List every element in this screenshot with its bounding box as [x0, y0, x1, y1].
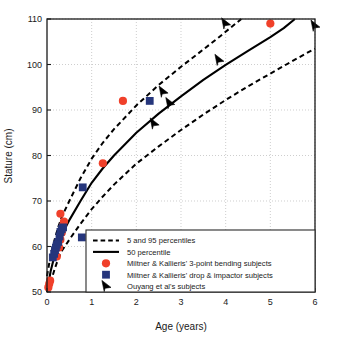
y-tick-label: 50: [32, 287, 42, 297]
y-tick-label: 100: [27, 60, 42, 70]
x-tick-label: 3: [178, 297, 183, 307]
chart-legend: 5 and 95 percentiles50 percentileMiltner…: [86, 230, 315, 292]
x-tick-label: 6: [312, 297, 317, 307]
y-tick-label: 110: [28, 14, 42, 24]
y-tick-label: 70: [32, 196, 42, 206]
legend-item-label: 50 percentile: [127, 248, 170, 257]
chart-figure: 01234565060708090100110 Age (years) Stat…: [0, 0, 338, 341]
y-axis-label: Stature (cm): [3, 128, 14, 183]
x-tick-label: 0: [44, 297, 49, 307]
legend-item-label: Ouyang et al's subjects: [127, 282, 205, 291]
legend-item-label: Miltner & Kallieris' drop & impactor sub…: [127, 271, 273, 280]
y-tick-label: 60: [32, 242, 42, 252]
y-tick-label: 80: [32, 151, 42, 161]
x-tick-label: 5: [268, 297, 273, 307]
legend-item-label: Miltner & Kallieris' 3-point bending sub…: [127, 259, 272, 268]
x-axis-label: Age (years): [155, 321, 207, 332]
x-tick-label: 1: [89, 297, 94, 307]
stature-vs-age-chart: 01234565060708090100110 Age (years) Stat…: [0, 0, 338, 341]
y-tick-label: 90: [32, 105, 42, 115]
x-tick-label: 4: [223, 297, 228, 307]
x-tick-label: 2: [134, 297, 139, 307]
legend-item-label: 5 and 95 percentiles: [127, 236, 196, 245]
